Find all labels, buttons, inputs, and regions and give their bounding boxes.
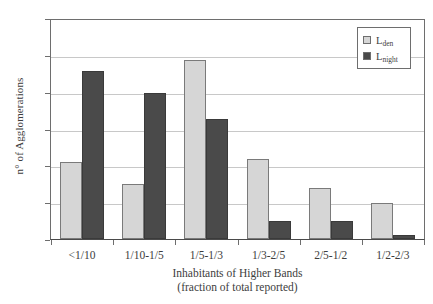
- legend-label-lden: Lden: [376, 35, 393, 46]
- y-tick-mark-0: [45, 240, 50, 241]
- bar-chart: n° of Agglomerations 60 50 40 30 20 10 0…: [0, 0, 433, 304]
- x-tick-label: 1/10-1/5: [125, 249, 164, 261]
- x-tick-mark: [113, 240, 114, 245]
- bar-lnight[interactable]: [269, 221, 291, 239]
- x-tick-label: 1/5-1/3: [190, 249, 223, 261]
- x-tick-mark: [362, 240, 363, 245]
- bar-lden[interactable]: [184, 60, 206, 239]
- legend-label-lnight-sub: night: [382, 55, 397, 64]
- bar-lnight[interactable]: [393, 235, 415, 239]
- legend-label-lnight: Lnight: [376, 51, 398, 62]
- bar-group: [175, 20, 237, 239]
- x-axis-title: Inhabitants of Higher Bands (fraction of…: [50, 266, 425, 294]
- x-axis-title-line2: (fraction of total reported): [50, 280, 425, 294]
- y-tick-mark-20: [45, 166, 50, 167]
- legend-swatch-lden-icon: [363, 36, 371, 44]
- bar-lden[interactable]: [371, 203, 393, 240]
- bar-lnight[interactable]: [206, 119, 228, 239]
- bar-lden[interactable]: [122, 184, 144, 239]
- x-tick-mark: [424, 240, 425, 245]
- y-tick-mark-30: [45, 130, 50, 131]
- x-tick-mark: [238, 240, 239, 245]
- bar-group: [51, 20, 113, 239]
- bar-lnight[interactable]: [82, 71, 104, 239]
- y-tick-mark-50: [45, 56, 50, 57]
- x-tick-label: 1/2-2/3: [376, 249, 409, 261]
- x-tick-mark: [300, 240, 301, 245]
- bar-group: [113, 20, 175, 239]
- y-tick-mark-40: [45, 93, 50, 94]
- bar-lnight[interactable]: [144, 93, 166, 239]
- bar-lden[interactable]: [60, 162, 82, 239]
- y-tick-mark-10: [45, 203, 50, 204]
- legend-item-lden[interactable]: Lden: [363, 32, 410, 48]
- legend-item-lnight[interactable]: Lnight: [363, 48, 410, 64]
- legend-label-lden-sub: den: [382, 39, 393, 48]
- x-tick-label: 2/5-1/2: [314, 249, 347, 261]
- bar-lden[interactable]: [247, 159, 269, 239]
- bar-group: [238, 20, 300, 239]
- y-tick-mark-60: [45, 19, 50, 20]
- bar-lden[interactable]: [309, 188, 331, 239]
- bar-lnight[interactable]: [331, 221, 353, 239]
- x-axis-title-line1: Inhabitants of Higher Bands: [173, 267, 303, 279]
- x-tick-label: 1/3-2/5: [252, 249, 285, 261]
- x-tick-mark: [175, 240, 176, 245]
- x-tick-label: <1/10: [69, 249, 96, 261]
- legend: Lden Lnight: [357, 27, 411, 69]
- x-tick-mark: [51, 240, 52, 245]
- legend-swatch-lnight-icon: [363, 52, 371, 60]
- y-axis-title: n° of Agglomerations: [13, 36, 25, 216]
- bar-group: [300, 20, 362, 239]
